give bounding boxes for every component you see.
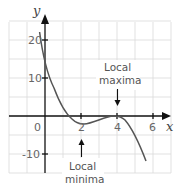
x-tick-0: 0	[34, 121, 41, 134]
x-tick-4: 4	[114, 121, 121, 134]
y-axis-label: y	[32, 3, 41, 18]
y-tick-20: 20	[28, 34, 42, 47]
maxima-label-line2: maxima	[99, 74, 141, 86]
y-axis-arrow-icon	[41, 14, 49, 24]
x-axis-label: x	[166, 119, 174, 134]
y-tick-neg10: -10	[22, 148, 40, 161]
minima-label-line2: minima	[65, 173, 104, 185]
x-tick-6: 6	[149, 121, 156, 134]
x-tick-2: 2	[78, 121, 85, 134]
maxima-label-line1: Local	[104, 61, 131, 73]
function-graph: y x 0 2 4 6 20 10 -10 Local maxima Local…	[0, 0, 178, 187]
minima-label-line1: Local	[69, 160, 96, 172]
function-curve	[40, 32, 146, 161]
y-tick-10: 10	[28, 72, 42, 85]
